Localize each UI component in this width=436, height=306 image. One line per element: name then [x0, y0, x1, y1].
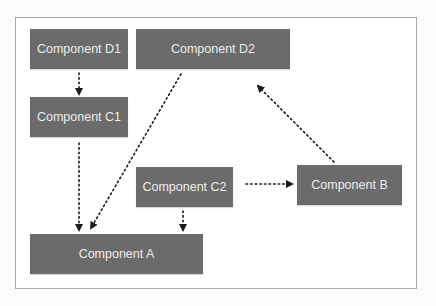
node-label: Component D1: [37, 42, 121, 56]
node-label: Component C1: [37, 110, 121, 124]
edge-b-d2: [258, 86, 334, 162]
node-component-c1[interactable]: Component C1: [30, 97, 128, 137]
node-label: Component C2: [142, 180, 226, 194]
node-label: Component D2: [171, 42, 255, 56]
node-component-a[interactable]: Component A: [30, 234, 203, 274]
node-label: Component A: [79, 247, 155, 261]
node-label: Component B: [311, 178, 387, 192]
node-component-c2[interactable]: Component C2: [136, 167, 233, 207]
node-component-d1[interactable]: Component D1: [30, 29, 128, 69]
node-component-d2[interactable]: Component D2: [136, 29, 290, 69]
node-component-b[interactable]: Component B: [297, 165, 402, 205]
